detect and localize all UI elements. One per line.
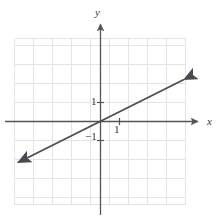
coordinate-plane-svg bbox=[0, 0, 220, 218]
graph-figure: y x 1 −1 1 bbox=[0, 0, 220, 218]
y-tick-label-negative-1: −1 bbox=[85, 131, 97, 142]
x-tick-label-1: 1 bbox=[114, 124, 120, 135]
x-axis-label: x bbox=[207, 116, 212, 127]
y-tick-label-1: 1 bbox=[91, 96, 97, 107]
y-axis-label: y bbox=[95, 7, 100, 18]
